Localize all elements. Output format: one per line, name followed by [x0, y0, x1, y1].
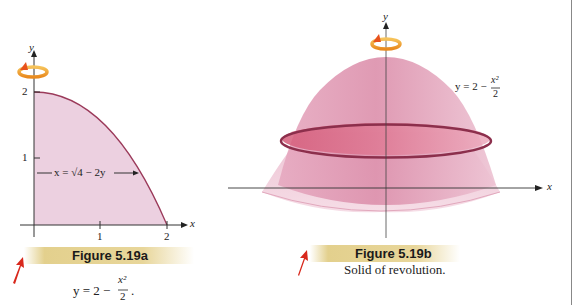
y-axis-arrow-icon — [383, 22, 389, 29]
x-axis-label: x — [190, 217, 195, 229]
x-tick-2: 2 — [164, 230, 170, 242]
figure-a-caption-num: x² — [118, 273, 126, 285]
figure-b-caption: Solid of revolution. — [344, 262, 445, 278]
figure-a-caption-den: 2 — [120, 290, 126, 302]
shaded-region — [34, 92, 167, 225]
x-axis-arrow-icon — [181, 222, 188, 228]
figure-a-caption-end: . — [131, 283, 134, 299]
equation-den: 2 — [493, 88, 498, 99]
figure-a-plot — [19, 50, 188, 237]
figure-a-caption-lhs: y = 2 − — [73, 283, 110, 299]
curve-label: x = √4 − 2y — [54, 166, 105, 178]
x-tick-1: 1 — [97, 230, 103, 242]
y-tick-1: 1 — [22, 151, 28, 163]
y-axis-label: y — [383, 10, 388, 22]
figure-a-title: Figure 5.19a — [72, 248, 148, 263]
equation-num: x² — [491, 74, 498, 85]
y-axis-label: y — [29, 41, 34, 53]
x-axis-arrow-icon — [535, 185, 543, 191]
y-tick-2: 2 — [22, 85, 28, 97]
red-pointer-arrow-icon — [13, 257, 24, 284]
rotation-arrow-icon — [19, 62, 47, 77]
x-axis-label: x — [547, 180, 552, 192]
figure-b-title: Figure 5.19b — [355, 246, 432, 261]
figure-b-plot — [228, 22, 543, 238]
equation-lhs: y = 2 − — [455, 80, 487, 92]
red-pointer-arrow-icon — [298, 250, 308, 276]
page-border — [571, 0, 572, 305]
